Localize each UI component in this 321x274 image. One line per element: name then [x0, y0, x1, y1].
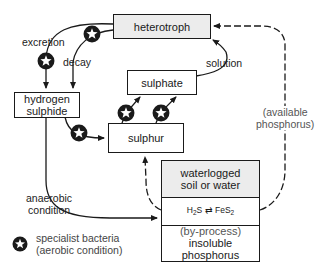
stack-to-sulphur-dashed-arrow [145, 157, 161, 210]
legend: specialist bacteria (aerobic condition) [12, 232, 122, 256]
hydrogen-sulphide-line1: hydrogen [24, 93, 70, 105]
insoluble-phosphorus-row: (by-process) insoluble phosphorus [162, 225, 259, 261]
equilibrium-row: H2S ⇄ FeS2 [162, 197, 259, 226]
bacteria-icon-decay [84, 26, 101, 43]
node-hydrogen-sulphide: hydrogen sulphide [14, 92, 80, 118]
legend-line2: (aerobic condition) [36, 244, 122, 256]
equilibrium-text: H2S ⇄ FeS2 [187, 204, 234, 219]
byprocess-label: (by-process) [180, 225, 241, 237]
node-sulphur: sulphur [108, 123, 184, 153]
node-waterlogged-stack: waterlogged soil or water H2S ⇄ FeS2 (by… [161, 160, 260, 262]
bacteria-icon-sulphate-1 [118, 105, 135, 122]
insoluble-line2: phosphorus [182, 249, 240, 261]
waterlogged-row: waterlogged soil or water [162, 161, 259, 198]
available-phosphorus-label: (available phosphorus) [256, 106, 314, 130]
anaerobic-condition-label: anaerobic condition [26, 192, 72, 216]
sulphur-label: sulphur [128, 132, 164, 144]
waterlogged-line1: waterlogged [181, 167, 241, 179]
waterlogged-line2: soil or water [181, 179, 240, 191]
solution-label: solution [206, 57, 242, 69]
excretion-label: excretion [22, 36, 65, 48]
node-sulphate: sulphate [127, 70, 197, 95]
decay-label: decay [63, 56, 91, 68]
bacteria-icon-sulphate-2 [153, 105, 170, 122]
legend-line1: specialist bacteria [36, 232, 122, 244]
bacteria-icon-excretion [38, 53, 55, 70]
bacteria-legend-icon [12, 236, 28, 252]
heterotroph-label: heterotroph [134, 21, 190, 33]
node-heterotroph: heterotroph [113, 14, 211, 39]
sulphate-label: sulphate [141, 77, 183, 89]
insoluble-line1: insoluble [189, 237, 232, 249]
equilibrium-arrows-icon: ⇄ [205, 205, 213, 215]
bacteria-icon-h2s-sulphur [71, 125, 88, 142]
hydrogen-sulphide-line2: sulphide [27, 105, 68, 117]
